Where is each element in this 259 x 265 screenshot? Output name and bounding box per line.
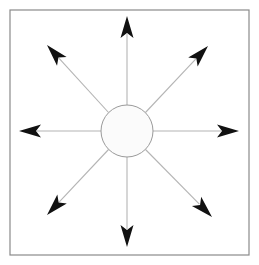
radial-arrow-diagram [0,0,259,265]
figure-root [0,0,259,265]
central-circle [101,105,153,157]
